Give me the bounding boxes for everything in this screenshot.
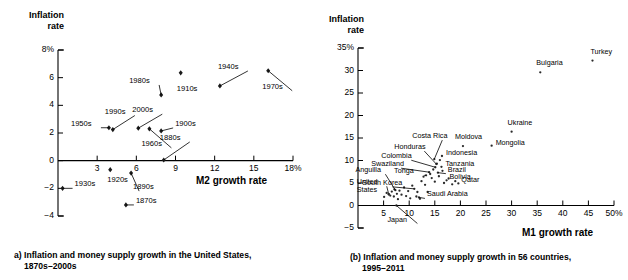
y-tick-label-a-4: 4: [12, 100, 54, 109]
chart-panel-b: −505101520253035%5101520253035404550%Tur…: [314, 0, 628, 280]
point-label-1980s: 1980s: [129, 77, 150, 85]
y-tick-label-a-0: −4: [12, 211, 54, 220]
y-tick-label-a-2: 0: [12, 156, 54, 165]
point-label-1900s: 1900s: [175, 120, 196, 128]
point-label-1960s: 1960s: [141, 140, 162, 148]
y-tick-label-a-3: 2: [12, 128, 54, 137]
chart-panel-a: −4−202468%369121518%1870s1880s1890s1900s…: [0, 0, 314, 280]
point-label-1990s: 1990s: [105, 108, 126, 116]
point-label-bulgaria: Bulgaria: [536, 59, 562, 67]
point-label-moldova: Moldova: [455, 133, 482, 141]
panel-b-caption: (b) Inflation and money supply growth in…: [350, 252, 571, 274]
y-tick-label-b-5: 20: [312, 111, 354, 120]
point-label-1870s: 1870s: [136, 197, 157, 205]
plot-area-b: −505101520253035%5101520253035404550%Tur…: [314, 0, 628, 240]
point-label-honduras: Honduras: [394, 143, 425, 151]
point-label-1940s: 1940s: [218, 63, 239, 71]
point-label-indonesia: Indonesia: [446, 149, 477, 157]
y-tick-label-a-5: 6: [12, 73, 54, 82]
point-label-1920s: 1920s: [107, 176, 128, 184]
y-tick-label-a-1: −2: [12, 183, 54, 192]
x-tick-label-a-3: 12: [199, 164, 231, 173]
panel-a-caption-line1: a) Inflation and money supply growth in …: [14, 250, 251, 260]
y-tick-label-b-1: 0: [312, 201, 354, 210]
point-label-1930s: 1930s: [75, 180, 96, 188]
y-tick-label-b-2: 5: [312, 178, 354, 187]
point-label-1970s: 1970s: [262, 83, 283, 91]
plot-area-a: −4−202468%369121518%1870s1880s1890s1900s…: [0, 0, 314, 240]
point-label-tonga: Tonga: [394, 167, 414, 175]
x-axis-title-m1: M1 growth rate: [522, 228, 593, 238]
panel-a-caption: a) Inflation and money supply growth in …: [14, 250, 251, 272]
point-label-2000s: 2000s: [132, 106, 153, 114]
y-axis-title-line2-b: rate: [308, 25, 364, 35]
point-label-saudi-arabia: Saudi Arabia: [427, 190, 468, 198]
point-label-1890s: 1890s: [133, 183, 154, 191]
y-tick-label-a-6: 8%: [12, 45, 54, 54]
y-tick-label-b-6: 25: [312, 88, 354, 97]
x-tick-label-a-5: 18%: [277, 164, 309, 173]
point-label-qatar: Qatar: [461, 176, 479, 184]
y-axis-title-line1-b: Inflation: [308, 14, 364, 24]
point-label-mongolia: Mongolia: [496, 139, 525, 147]
y-tick-label-b-0: −5: [312, 223, 354, 232]
x-tick-label-a-2: 9: [160, 164, 192, 173]
x-axis-title-m2: M2 growth rate: [196, 176, 267, 186]
point-label-anguilla: Anguilla: [355, 166, 381, 174]
scatter-svg-a: [0, 0, 314, 240]
point-label-1950s: 1950s: [71, 120, 92, 128]
x-tick-label-a-4: 15: [238, 164, 270, 173]
panel-b-caption-line1: (b) Inflation and money supply growth in…: [350, 252, 571, 262]
scatter-svg-b: [314, 0, 628, 240]
point-label-1910s: 1910s: [177, 85, 198, 93]
point-label-turkey: Turkey: [590, 48, 612, 56]
point-label-states: States: [357, 186, 377, 194]
y-axis-title-line1: Inflation: [2, 10, 64, 20]
point-label-japan: Japan: [387, 216, 407, 224]
x-tick-label-a-0: 3: [81, 164, 113, 173]
panel-a-caption-line2: 1870s–2000s: [14, 261, 77, 272]
y-tick-label-b-4: 15: [312, 133, 354, 142]
point-label-ukraine: Ukraine: [508, 119, 533, 127]
figure-container: −4−202468%369121518%1870s1880s1890s1900s…: [0, 0, 628, 280]
y-axis-title-line2: rate: [2, 21, 64, 31]
point-label-costa-rica: Costa Rica: [412, 132, 447, 140]
y-tick-label-b-7: 30: [312, 66, 354, 75]
x-tick-label-a-1: 6: [120, 164, 152, 173]
x-tick-label-b-9: 50%: [598, 209, 628, 218]
panel-b-caption-line2: 1995–2011: [350, 263, 405, 274]
point-label-1880s: 1880s: [160, 134, 181, 142]
y-tick-label-b-3: 10: [312, 156, 354, 165]
y-tick-label-b-8: 35%: [312, 43, 354, 52]
